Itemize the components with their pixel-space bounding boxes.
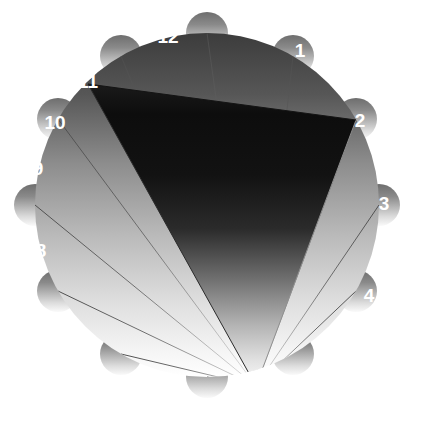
node-label-10: 10 bbox=[44, 112, 65, 133]
node-label-6: 6 bbox=[165, 375, 176, 396]
node-label-3: 3 bbox=[379, 193, 390, 214]
node-label-2: 2 bbox=[355, 110, 366, 131]
diagram-canvas: 12 1 2 3 4 5 6 7 8 9 10 11 bbox=[0, 0, 425, 421]
node-label-1: 1 bbox=[295, 40, 306, 61]
node-label-8: 8 bbox=[36, 240, 47, 261]
node-label-7: 7 bbox=[79, 328, 90, 349]
node-label-11: 11 bbox=[78, 71, 99, 92]
clock-polygon-svg: 12 1 2 3 4 5 6 7 8 9 10 11 bbox=[0, 0, 425, 421]
node-label-5: 5 bbox=[259, 375, 270, 396]
node-label-4: 4 bbox=[364, 285, 375, 306]
node-label-12: 12 bbox=[157, 26, 178, 47]
node-label-9: 9 bbox=[33, 158, 44, 179]
